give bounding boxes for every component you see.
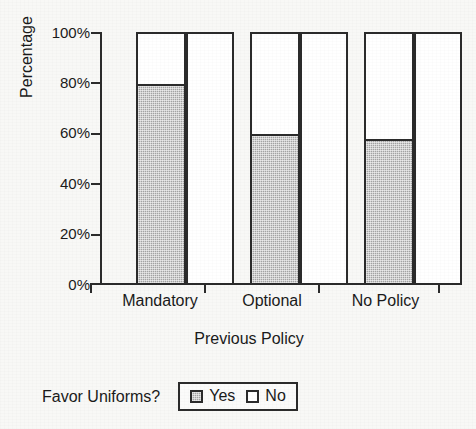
- x-tick-mark: [90, 285, 92, 293]
- y-tick-mark: [91, 234, 100, 236]
- chart-figure: Percentage 100% 80% 60% 40% 20% 0%: [0, 0, 476, 429]
- legend-entry-yes[interactable]: Yes: [190, 387, 235, 405]
- bar-mandatory-yes[interactable]: [136, 32, 186, 285]
- y-tick-mark: [91, 283, 100, 285]
- bar-fill-yes: [252, 134, 298, 283]
- legend-label-no: No: [265, 387, 285, 405]
- y-tick-mark: [91, 32, 100, 34]
- x-tick-label-mandatory: Mandatory: [105, 292, 215, 310]
- y-tick-label: 20%: [34, 226, 90, 241]
- y-tick-label: 40%: [34, 176, 90, 191]
- y-tick-label: 60%: [34, 125, 90, 140]
- bar-fill-yes: [366, 139, 412, 283]
- y-tick-mark: [91, 183, 100, 185]
- legend: Favor Uniforms? Yes No: [42, 382, 298, 411]
- bar-no-policy-yes[interactable]: [364, 32, 414, 285]
- legend-entry-no[interactable]: No: [246, 387, 285, 405]
- bar-no-policy-no[interactable]: [414, 32, 462, 285]
- legend-title: Favor Uniforms?: [42, 388, 160, 406]
- gray-square-icon: [190, 390, 203, 403]
- y-tick-label: 100%: [34, 25, 90, 40]
- y-axis-line: [100, 32, 102, 285]
- x-tick-label-optional: Optional: [222, 292, 322, 310]
- bar-optional-yes[interactable]: [250, 32, 300, 285]
- y-axis-tick-labels: 100% 80% 60% 40% 20% 0%: [34, 0, 90, 429]
- legend-box: Yes No: [178, 382, 298, 411]
- bar-mandatory-no[interactable]: [186, 32, 234, 285]
- y-tick-mark: [91, 82, 100, 84]
- bar-optional-no[interactable]: [300, 32, 348, 285]
- y-tick-label: 0%: [34, 277, 90, 292]
- bar-fill-yes: [138, 84, 184, 283]
- legend-label-yes: Yes: [209, 387, 235, 405]
- y-tick-mark: [91, 133, 100, 135]
- x-tick-label-no-policy: No Policy: [333, 292, 438, 310]
- plot-area: [100, 32, 440, 285]
- x-axis-title: Previous Policy: [0, 330, 476, 348]
- y-tick-label: 80%: [34, 75, 90, 90]
- white-square-icon: [246, 390, 259, 403]
- x-tick-mark: [438, 285, 440, 293]
